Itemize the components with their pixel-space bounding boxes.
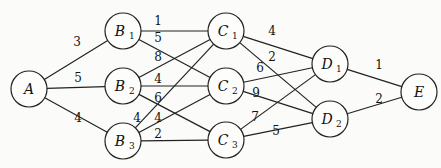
node-subscript: 2 xyxy=(336,119,342,129)
edge-weight-a-b3: 4 xyxy=(74,111,82,125)
node-subscript: 2 xyxy=(129,86,135,96)
node-label: B xyxy=(114,23,125,39)
edge-weight-c2-d2: 9 xyxy=(252,86,260,100)
edge-weight-b3-c1: 4 xyxy=(133,111,141,125)
edge-weight-b3-c2: 4 xyxy=(154,111,162,125)
edge-c2-d1 xyxy=(244,68,313,83)
node-subscript: 2 xyxy=(232,86,238,96)
edge-b3-c3 xyxy=(141,140,208,141)
edge-weight-b1-c2: 5 xyxy=(154,31,162,45)
node-d2: D2 xyxy=(312,101,348,137)
node-subscript: 1 xyxy=(129,31,135,41)
network-graph: 3541584644242697512 AB1B2B3C1C2C3D1D2E xyxy=(0,0,441,168)
edge-weight-b2-c1: 8 xyxy=(154,50,162,64)
node-c3: C3 xyxy=(208,122,244,158)
node-label: E xyxy=(413,84,424,100)
node-label: C xyxy=(218,78,229,94)
node-b3: B3 xyxy=(105,123,141,159)
node-c1: C1 xyxy=(208,13,244,49)
node-b2: B2 xyxy=(105,68,141,104)
edge-weight-c1-d1: 4 xyxy=(268,24,276,38)
node-b1: B1 xyxy=(105,13,141,49)
edge-weight-d2-e: 2 xyxy=(375,92,383,106)
edge-weight-c3-d2: 5 xyxy=(272,124,280,138)
edge-c1-d1 xyxy=(243,36,313,58)
node-subscript: 1 xyxy=(336,64,342,74)
node-e: E xyxy=(401,74,437,110)
edge-weight-b2-c2: 4 xyxy=(154,72,162,86)
node-label: C xyxy=(218,132,229,148)
edge-a-b2 xyxy=(47,87,105,89)
node-label: B xyxy=(114,133,125,149)
edge-weight-c1-d2: 2 xyxy=(268,50,276,64)
edge-weight-b3-c3: 2 xyxy=(154,127,162,141)
edge-weight-b1-c1: 1 xyxy=(154,14,162,28)
node-label: D xyxy=(320,111,332,127)
edge-weight-a-b1: 3 xyxy=(73,35,81,49)
node-label: D xyxy=(320,56,332,72)
node-label: C xyxy=(218,23,229,39)
edge-weight-c3-d1: 7 xyxy=(251,110,259,124)
node-d1: D1 xyxy=(312,46,348,82)
edge-weight-a-b2: 5 xyxy=(74,71,82,85)
node-subscript: 3 xyxy=(232,140,238,150)
node-label: A xyxy=(22,81,34,97)
edge-weight-c2-d1: 6 xyxy=(256,61,264,75)
node-subscript: 1 xyxy=(232,31,238,41)
node-c2: C2 xyxy=(208,68,244,104)
node-subscript: 3 xyxy=(129,141,135,151)
edge-weight-b2-c3: 6 xyxy=(154,91,162,105)
node-a: A xyxy=(11,71,47,107)
edge-weight-d1-e: 1 xyxy=(375,58,383,72)
node-label: B xyxy=(114,78,125,94)
